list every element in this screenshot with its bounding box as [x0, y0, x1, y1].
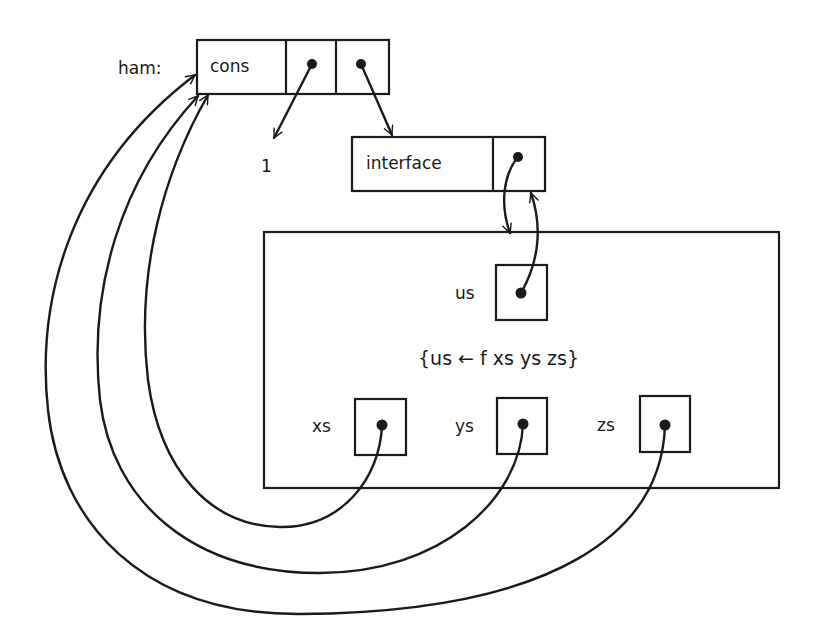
- process-equation: {us ← f xs ys zs}: [418, 347, 579, 369]
- cons-tag-label: cons: [210, 56, 250, 76]
- us-label: us: [455, 283, 475, 303]
- process-box: us {us ← f xs ys zs} xs ys zs: [264, 232, 779, 488]
- ys-label: ys: [455, 416, 474, 436]
- root-label: ham:: [118, 58, 161, 78]
- diagram-canvas: ham: cons 1 interface us {us ← f xs ys z…: [0, 0, 825, 644]
- constant-value-label: 1: [261, 156, 272, 176]
- xs-label: xs: [312, 416, 331, 436]
- cons-cell: cons: [197, 40, 389, 94]
- interface-tag-label: interface: [366, 153, 442, 173]
- zs-label: zs: [597, 415, 615, 435]
- interface-cell: interface: [352, 137, 545, 191]
